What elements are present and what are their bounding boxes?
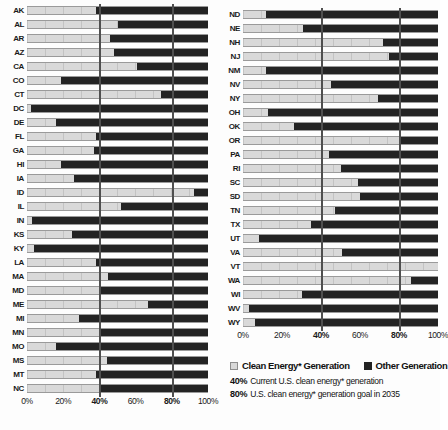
axis-tick-0%: 0%: [21, 396, 33, 406]
state-label: IL: [2, 202, 27, 211]
bar-row-MI: MI: [2, 314, 208, 323]
state-label: CA: [2, 62, 27, 71]
bar-row-NY: NY: [218, 94, 438, 103]
state-label: NJ: [218, 52, 243, 61]
state-label: WI: [218, 290, 243, 299]
other-generation-bar: [27, 370, 208, 379]
clean-energy-bar: [243, 165, 341, 172]
x-axis: 0%20%40%60%80%100%: [243, 330, 438, 343]
clean-energy-bar: [243, 235, 259, 242]
clean-energy-bar: [243, 305, 249, 312]
clean-energy-bar: [27, 259, 96, 266]
state-label: MO: [2, 342, 27, 351]
clean-energy-bar: [27, 231, 72, 238]
other-generation-bar: [27, 188, 208, 197]
state-label: CT: [2, 90, 27, 99]
clean-energy-bar: [243, 193, 360, 200]
clean-energy-bar: [27, 217, 32, 224]
legend-note-40: 40%Current U.S. clean energy* generation: [230, 376, 440, 386]
other-generation-bar: [243, 290, 438, 299]
bar-row-CA: CA: [2, 62, 208, 71]
other-generation-bar: [27, 384, 208, 393]
state-label: TN: [218, 206, 243, 215]
bar-row-HI: HI: [2, 160, 208, 169]
clean-energy-bar: [243, 151, 329, 158]
bar-row-WV: WV: [218, 304, 438, 313]
state-label: IA: [2, 174, 27, 183]
other-generation-bar: [243, 94, 438, 103]
bar-row-AK: AK: [2, 6, 208, 15]
other-generation-bar: [27, 160, 208, 169]
state-label: PA: [218, 150, 243, 159]
state-label: WA: [218, 276, 243, 285]
state-label: IN: [2, 216, 27, 225]
legend-note-80: 80%U.S. clean energy* generation goal in…: [230, 389, 440, 399]
clean-energy-bar: [27, 245, 34, 252]
bar-row-CO: CO: [2, 76, 208, 85]
state-label: NE: [218, 24, 243, 33]
state-label: KS: [2, 230, 27, 239]
axis-tick-60%: 60%: [128, 396, 144, 406]
state-label: OH: [218, 108, 243, 117]
state-label: SD: [218, 192, 243, 201]
legend-label-clean: Clean Energy* Generation: [242, 360, 350, 371]
bar-rows: NDNENHNJNMNVNYOHOKORPARISCSDTNTXUTVAVTWA…: [218, 10, 438, 327]
clean-energy-bar: [27, 105, 31, 112]
bar-row-LA: LA: [2, 258, 208, 267]
state-label: MN: [2, 328, 27, 337]
state-label: MI: [2, 314, 27, 323]
other-generation-bar: [27, 118, 208, 127]
state-label: SC: [218, 178, 243, 187]
other-generation-bar: [27, 272, 208, 281]
other-generation-bar: [27, 90, 208, 99]
axis-tick-100%: 100%: [428, 330, 448, 340]
state-label: NM: [218, 66, 243, 75]
bar-row-NE: NE: [218, 24, 438, 33]
legend-item-clean: Clean Energy* Generation: [230, 360, 350, 371]
state-label: VA: [218, 248, 243, 257]
state-label: AK: [2, 6, 27, 15]
bar-row-VT: VT: [218, 262, 438, 271]
state-label: MD: [2, 286, 27, 295]
other-generation-bar: [243, 108, 438, 117]
bar-row-RI: RI: [218, 164, 438, 173]
bar-row-MD: MD: [2, 286, 208, 295]
state-label: ID: [2, 188, 27, 197]
bar-row-OH: OH: [218, 108, 438, 117]
clean-energy-bar: [243, 39, 383, 46]
state-label: WV: [218, 304, 243, 313]
state-bar-chart-panel-left: AKALARAZCACOCTDCDEFLGAHIIAIDILINKSKYLAMA…: [2, 6, 208, 409]
bar-row-NC: NC: [2, 384, 208, 393]
x-axis: 0%20%40%60%80%100%: [27, 396, 208, 409]
clean-energy-bar: [27, 63, 137, 70]
bar-row-AR: AR: [2, 34, 208, 43]
other-generation-bar: [243, 178, 438, 187]
legend-note-40-value: 40%: [230, 376, 247, 386]
state-label: DE: [2, 118, 27, 127]
clean-energy-bar: [243, 109, 268, 116]
legend-note-40-text: Current U.S. clean energy* generation: [250, 376, 383, 386]
other-generation-bar: [243, 136, 438, 145]
bar-row-OR: OR: [218, 136, 438, 145]
state-label: UT: [218, 234, 243, 243]
bar-row-KY: KY: [2, 244, 208, 253]
bar-row-GA: GA: [2, 146, 208, 155]
other-generation-bar: [27, 104, 208, 113]
clean-energy-bar: [27, 301, 148, 308]
state-label: MA: [2, 272, 27, 281]
other-generation-bar: [243, 234, 438, 243]
state-label: NY: [218, 94, 243, 103]
bar-row-SC: SC: [218, 178, 438, 187]
clean-energy-bar: [243, 53, 389, 60]
clean-energy-bar: [27, 203, 121, 210]
other-generation-bar: [27, 62, 208, 71]
clean-energy-bar: [243, 319, 255, 326]
bar-row-IA: IA: [2, 174, 208, 183]
bar-row-DC: DC: [2, 104, 208, 113]
clean-energy-bar: [243, 11, 266, 18]
clean-energy-bar: [27, 119, 56, 126]
clean-energy-bar: [243, 137, 399, 144]
clean-energy-bar: [243, 67, 266, 74]
state-label: WY: [218, 318, 243, 327]
